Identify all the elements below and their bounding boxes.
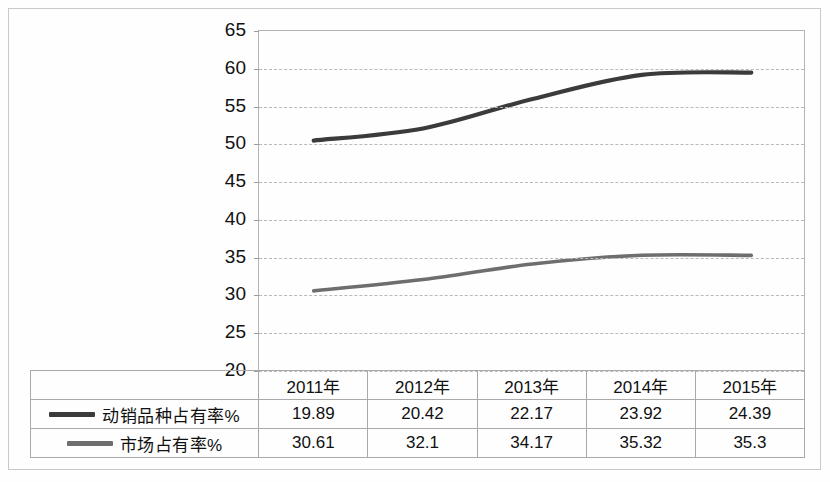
plot-area [258, 30, 805, 370]
gridline-55 [259, 107, 804, 108]
column-header-2011: 2011年 [259, 371, 368, 400]
y-axis-label-65: 65 [200, 20, 246, 39]
column-header-2015: 2015年 [695, 371, 804, 400]
y-axis-label-50: 50 [200, 133, 246, 152]
data-table: 2011年2012年2013年2014年2015年动销品种占有率%19.8920… [30, 370, 805, 458]
legend-line-swatch-icon [49, 412, 95, 417]
data-table-container: 2011年2012年2013年2014年2015年动销品种占有率%19.8920… [30, 370, 805, 458]
gridline-25 [259, 333, 804, 334]
chart-page: 65605550454035302520 2011年2012年2013年2014… [0, 0, 830, 482]
column-header-2012: 2012年 [368, 371, 477, 400]
table-cell: 32.1 [368, 429, 477, 458]
y-axis-label-55: 55 [200, 96, 246, 115]
tickmark-40 [254, 220, 259, 221]
y-axis-label-40: 40 [200, 209, 246, 228]
tickmark-25 [254, 333, 259, 334]
tickmark-30 [254, 295, 259, 296]
tickmark-65 [254, 31, 259, 32]
legend-label-2: 市场占有率% [120, 431, 223, 456]
y-axis-label-35: 35 [200, 247, 246, 266]
table-cell: 35.32 [586, 429, 695, 458]
legend-label-1: 动销品种占有率% [102, 402, 240, 427]
y-axis-label-60: 60 [200, 58, 246, 77]
tickmark-45 [254, 182, 259, 183]
gridline-45 [259, 182, 804, 183]
tickmark-55 [254, 107, 259, 108]
table-cell: 35.3 [695, 429, 804, 458]
table-row: 市场占有率%30.6132.134.1735.3235.3 [31, 429, 805, 458]
series-lines [259, 31, 806, 371]
gridline-35 [259, 258, 804, 259]
y-axis-label-30: 30 [200, 284, 246, 303]
tickmark-35 [254, 258, 259, 259]
table-cell: 34.17 [477, 429, 586, 458]
table-cell: 20.42 [368, 400, 477, 429]
legend-cell-2: 市场占有率% [31, 429, 259, 458]
column-header-2013: 2013年 [477, 371, 586, 400]
y-axis-label-25: 25 [200, 322, 246, 341]
tickmark-50 [254, 144, 259, 145]
tickmark-60 [254, 69, 259, 70]
legend-line-swatch-icon [67, 441, 113, 446]
table-header-row: 2011年2012年2013年2014年2015年 [31, 371, 805, 400]
gridline-40 [259, 220, 804, 221]
y-axis-label-45: 45 [200, 171, 246, 190]
table-cell: 30.61 [259, 429, 368, 458]
gridline-50 [259, 144, 804, 145]
table-corner-cell [31, 371, 259, 400]
gridline-30 [259, 295, 804, 296]
table-cell: 23.92 [586, 400, 695, 429]
series-line-2 [314, 255, 752, 291]
legend-cell-1: 动销品种占有率% [31, 400, 259, 429]
column-header-2014: 2014年 [586, 371, 695, 400]
table-cell: 22.17 [477, 400, 586, 429]
gridline-60 [259, 69, 804, 70]
table-cell: 24.39 [695, 400, 804, 429]
table-cell: 19.89 [259, 400, 368, 429]
table-row: 动销品种占有率%19.8920.4222.1723.9224.39 [31, 400, 805, 429]
